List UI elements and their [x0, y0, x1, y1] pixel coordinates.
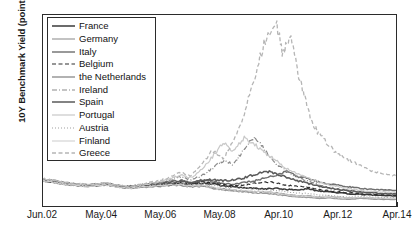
legend-item-label: Germany	[79, 34, 118, 44]
legend-item-label: France	[79, 21, 109, 31]
legend-item-belgium[interactable]: Belgium	[48, 58, 155, 71]
legend-item-label: Italy	[79, 47, 96, 57]
legend-line-swatch-icon	[51, 72, 76, 82]
x-axis-tick-mark	[397, 202, 398, 207]
legend-line-swatch-icon	[51, 47, 76, 57]
legend-line-swatch-icon	[51, 110, 76, 120]
legend-line-swatch-icon	[51, 97, 76, 107]
legend-line-swatch-icon	[51, 85, 76, 95]
legend-item-label: Greece	[79, 148, 110, 158]
legend-item-label: Portugal	[79, 110, 114, 120]
legend-line-swatch-icon	[51, 148, 76, 158]
legend-item-the-netherlands[interactable]: the Netherlands	[48, 71, 155, 84]
legend-item-portugal[interactable]: Portugal	[48, 109, 155, 122]
legend-item-label: Belgium	[79, 59, 113, 69]
legend-line-swatch-icon	[51, 59, 76, 69]
legend-item-germany[interactable]: Germany	[48, 33, 155, 46]
legend-item-label: Spain	[79, 97, 103, 107]
legend-item-italy[interactable]: Italy	[48, 45, 155, 58]
legend-item-label: the Netherlands	[79, 72, 146, 82]
legend-item-austria[interactable]: Austria	[48, 122, 155, 135]
legend-line-swatch-icon	[51, 21, 76, 31]
legend-line-swatch-icon	[51, 123, 76, 133]
legend-item-finland[interactable]: Finland	[48, 134, 155, 147]
legend-item-label: Austria	[79, 123, 109, 133]
x-axis-tick-label: Apr.14	[362, 209, 415, 220]
chart-container: 10Y Benchmark Yield (points) 51015202530…	[0, 0, 415, 246]
legend-item-greece[interactable]: Greece	[48, 147, 155, 160]
legend-line-swatch-icon	[51, 34, 76, 44]
legend-item-label: Ireland	[79, 85, 108, 95]
legend-item-france[interactable]: France	[48, 20, 155, 33]
chart-legend: FranceGermanyItalyBelgiumthe Netherlands…	[47, 17, 156, 161]
legend-item-spain[interactable]: Spain	[48, 96, 155, 109]
legend-item-label: Finland	[79, 136, 110, 146]
legend-item-ireland[interactable]: Ireland	[48, 83, 155, 96]
legend-line-swatch-icon	[51, 136, 76, 146]
y-axis-label: 10Y Benchmark Yield (points)	[16, 0, 27, 138]
